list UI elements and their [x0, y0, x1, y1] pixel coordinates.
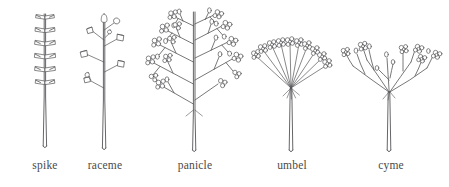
- panicle-illustration: [140, 0, 250, 158]
- cyme-central-branch: [375, 52, 389, 92]
- spike-flower-tier-4: [34, 53, 55, 59]
- umbel-flower-5: [285, 37, 294, 47]
- panicle-branch-upper-left: [160, 22, 194, 44]
- spike-flower-tier-2: [35, 27, 55, 32]
- umbel-flower-4: [276, 38, 285, 48]
- cyme-flower: [358, 41, 367, 51]
- panicle-branch-top-right: [195, 8, 224, 26]
- panel-umbel: umbel: [243, 0, 341, 187]
- panicle-branch-upper-right: [195, 19, 232, 40]
- panel-label-spike: spike: [32, 160, 57, 172]
- raceme-terminal-bud: [101, 14, 107, 22]
- panicle-flower: [233, 70, 241, 79]
- panicle-flower: [227, 36, 238, 46]
- raceme-flower-2: [87, 27, 104, 40]
- panicle-flower: [219, 79, 228, 88]
- panel-label-umbel: umbel: [277, 160, 307, 172]
- panicle-base-bracts: [186, 110, 202, 116]
- panel-cyme: cyme: [333, 0, 449, 187]
- cyme-primary-branch-far-right: [390, 50, 442, 92]
- panicle-flower: [221, 20, 232, 30]
- panicle-flower: [160, 23, 170, 33]
- umbel-flower-6: [295, 38, 304, 48]
- panel-label-panicle: panicle: [178, 160, 213, 172]
- spike-flower-tier-3: [35, 40, 56, 46]
- raceme-flower-3: [104, 34, 123, 46]
- panicle-branch-mid-right: [195, 35, 238, 58]
- panicle-flower: [213, 10, 224, 19]
- panel-label-cyme: cyme: [378, 160, 404, 172]
- panel-label-raceme: raceme: [88, 160, 122, 172]
- panel-panicle: panicle: [140, 0, 250, 187]
- umbel-flower-3: [267, 40, 276, 50]
- cyme-stem-group: [387, 92, 391, 152]
- spike-flower-tier-6: [35, 80, 55, 85]
- panicle-flower: [232, 52, 243, 62]
- panicle-stem-group: [193, 12, 196, 152]
- raceme-flower-5: [104, 60, 124, 72]
- inflorescence-figure: spike: [0, 0, 449, 187]
- panicle-flower: [152, 37, 162, 47]
- panicle-flower: [146, 55, 156, 65]
- cyme-base-bracts: [383, 92, 395, 100]
- cyme-flower: [431, 50, 442, 59]
- raceme-illustration: [58, 0, 152, 158]
- cyme-primary-branch-left: [358, 41, 389, 92]
- panel-raceme: raceme: [58, 0, 152, 187]
- raceme-stem-group: [102, 22, 105, 150]
- cyme-illustration: [333, 0, 449, 158]
- raceme-bud-2: [105, 30, 111, 37]
- panicle-flower: [156, 79, 166, 89]
- spike-flower-tier-1: [36, 15, 55, 20]
- panicle-branch-mid-left: [152, 35, 194, 62]
- spike-flower-tier-5: [35, 66, 56, 71]
- panicle-branch-base-right: [195, 79, 227, 101]
- umbel-illustration: [243, 0, 341, 158]
- raceme-flower-4: [80, 50, 104, 62]
- umbel-flower-2: [258, 44, 267, 54]
- panicle-flower: [168, 35, 177, 43]
- cyme-flower: [413, 44, 424, 53]
- cyme-flower: [399, 45, 408, 54]
- cyme-flower: [341, 47, 350, 56]
- panicle-flower: [173, 22, 181, 30]
- umbel-flower-10: [323, 59, 332, 69]
- panicle-branch-lower-right: [195, 52, 243, 80]
- cyme-flower: [417, 54, 427, 63]
- umbel-involucre-bracts: [283, 88, 299, 99]
- panicle-flower: [168, 10, 178, 20]
- raceme-flower-6: [84, 77, 104, 88]
- umbel-stem-group: [289, 88, 293, 152]
- panicle-flower: [163, 53, 172, 62]
